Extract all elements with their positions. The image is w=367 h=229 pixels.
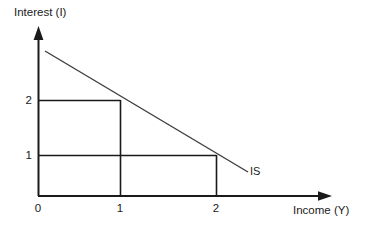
x-tick-label-2: 2 [209,203,223,215]
x-axis-arrowhead [318,191,332,201]
is-curve-label: IS [250,166,260,177]
y-axis-arrowhead [34,26,44,40]
is-curve-figure: Interest (I) Income (Y) IS 0 1 2 2 1 [0,0,367,229]
y-tick-label-1: 1 [18,150,32,162]
x-tick-label-0: 0 [31,203,45,215]
y-tick-label-2: 2 [18,95,32,107]
x-axis-title: Income (Y) [293,205,349,217]
is-curve-line [45,51,248,172]
y-axis-title: Interest (I) [14,7,66,19]
x-tick-label-1: 1 [113,203,127,215]
chart-canvas [0,0,367,229]
